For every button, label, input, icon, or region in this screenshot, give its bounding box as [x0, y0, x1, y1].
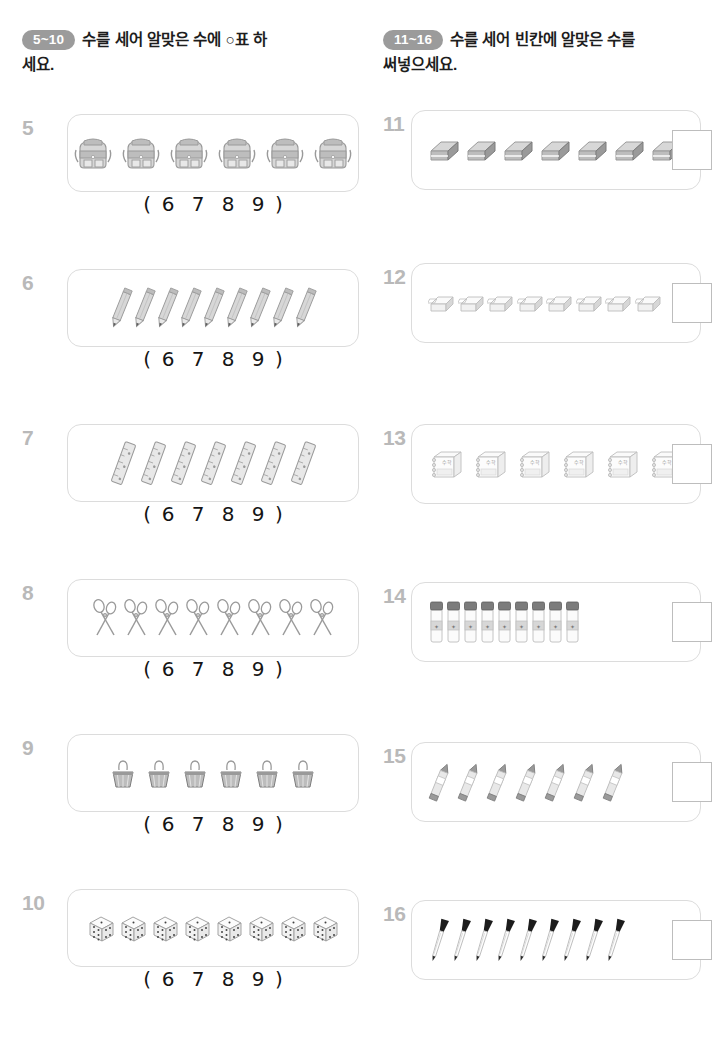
object-frame: [67, 424, 359, 502]
choice-option-9[interactable]: 9: [243, 192, 273, 216]
object-item: [225, 286, 248, 330]
object-frame: [67, 269, 359, 347]
object-item: [278, 913, 309, 944]
choice-option-7[interactable]: 7: [183, 657, 213, 681]
choice-option-8[interactable]: 8: [213, 347, 243, 371]
object-item: [582, 915, 604, 965]
object-item: ✦: [564, 599, 581, 645]
answer-input-box[interactable]: [672, 920, 712, 960]
choice-option-7[interactable]: 7: [183, 967, 213, 991]
object-item: [494, 915, 516, 965]
choice-open-paren: (: [143, 812, 151, 836]
svg-text:✦: ✦: [468, 624, 473, 630]
choice-close-paren: ): [275, 192, 283, 216]
svg-text:수학: 수학: [574, 459, 584, 466]
choice-close-paren: ): [275, 657, 283, 681]
svg-text:✦: ✦: [502, 624, 507, 630]
choice-option-9[interactable]: 9: [243, 502, 273, 526]
object-item: [450, 915, 472, 965]
object-group: ✦✦✦✦✦✦✦✦✦: [412, 583, 700, 661]
choice-option-7[interactable]: 7: [183, 502, 213, 526]
object-item: ✦: [496, 599, 513, 645]
answer-choices[interactable]: (6789): [67, 967, 359, 991]
object-group: [412, 111, 700, 189]
choice-option-8[interactable]: 8: [213, 502, 243, 526]
object-item: [156, 286, 179, 330]
answer-input-box[interactable]: [672, 602, 712, 642]
choice-close-paren: ): [275, 347, 283, 371]
choice-option-6[interactable]: 6: [153, 967, 183, 991]
object-item: [110, 286, 133, 330]
answer-input-box[interactable]: [672, 130, 712, 170]
object-item: [312, 136, 354, 170]
choice-open-paren: (: [143, 347, 151, 371]
object-item: [152, 597, 182, 639]
object-item: [428, 291, 456, 315]
choice-option-6[interactable]: 6: [153, 192, 183, 216]
answer-input-box[interactable]: [672, 762, 712, 802]
object-item: [248, 286, 271, 330]
choice-option-8[interactable]: 8: [213, 812, 243, 836]
object-item: [546, 291, 574, 315]
object-item: [264, 136, 306, 170]
problem-13: 13수학수학수학수학수학수학: [383, 424, 713, 534]
choice-option-7[interactable]: 7: [183, 192, 213, 216]
choice-option-6[interactable]: 6: [153, 657, 183, 681]
object-group: 수학수학수학수학수학수학: [412, 425, 700, 503]
answer-input-box[interactable]: [672, 444, 712, 484]
choice-option-9[interactable]: 9: [243, 967, 273, 991]
object-item: 수학: [516, 448, 553, 481]
problem-number: 11: [383, 112, 404, 136]
object-item: [517, 291, 545, 315]
choice-option-9[interactable]: 9: [243, 657, 273, 681]
object-item: [118, 913, 149, 944]
left-section-header: 5~10수를 세어 알맞은 수에 ○표 하 세요.: [22, 28, 367, 77]
object-group: [412, 901, 700, 979]
choice-option-6[interactable]: 6: [153, 812, 183, 836]
answer-choices[interactable]: (6789): [67, 812, 359, 836]
choice-option-6[interactable]: 6: [153, 347, 183, 371]
object-item: ✦: [445, 599, 462, 645]
answer-choices[interactable]: (6789): [67, 347, 359, 371]
choice-option-8[interactable]: 8: [213, 657, 243, 681]
object-frame: [411, 900, 701, 980]
choice-option-8[interactable]: 8: [213, 192, 243, 216]
object-frame: [411, 110, 701, 190]
choice-option-6[interactable]: 6: [153, 502, 183, 526]
problem-15: 15: [383, 742, 713, 852]
object-item: [472, 915, 494, 965]
svg-text:수학: 수학: [662, 459, 672, 466]
answer-choices[interactable]: (6789): [67, 657, 359, 681]
choice-option-7[interactable]: 7: [183, 812, 213, 836]
object-frame: [411, 263, 701, 343]
problem-10: 10(6789): [22, 889, 367, 1039]
choice-option-7[interactable]: 7: [183, 347, 213, 371]
object-item: ✦: [428, 599, 445, 645]
svg-text:수학: 수학: [486, 459, 496, 466]
problem-number: 15: [383, 744, 405, 768]
problem-16: 16: [383, 900, 713, 1010]
problem-14: 14✦✦✦✦✦✦✦✦✦: [383, 582, 713, 692]
left-section-instruction-line1: 수를 세어 알맞은 수에 ○표 하: [82, 31, 267, 48]
object-item: [179, 286, 202, 330]
answer-input-box[interactable]: [672, 283, 712, 323]
object-item: [214, 913, 245, 944]
right-section-instruction-line1: 수를 세어 빈칸에 알맞은 수를: [450, 31, 635, 48]
object-item: [605, 291, 633, 315]
object-group: [412, 264, 700, 342]
object-item: [252, 756, 282, 790]
answer-choices[interactable]: (6789): [67, 502, 359, 526]
object-item: [502, 135, 535, 165]
object-item: [544, 761, 569, 803]
choice-option-9[interactable]: 9: [243, 812, 273, 836]
object-item: [428, 915, 450, 965]
problem-number: 13: [383, 426, 405, 450]
problem-number: 5: [22, 116, 33, 140]
answer-choices[interactable]: (6789): [67, 192, 359, 216]
choice-option-8[interactable]: 8: [213, 967, 243, 991]
object-item: [539, 135, 572, 165]
choice-option-9[interactable]: 9: [243, 347, 273, 371]
right-section-header: 11~16수를 세어 빈칸에 알맞은 수를 써넣으세요.: [383, 28, 713, 77]
object-item: [202, 286, 225, 330]
object-item: [108, 756, 138, 790]
